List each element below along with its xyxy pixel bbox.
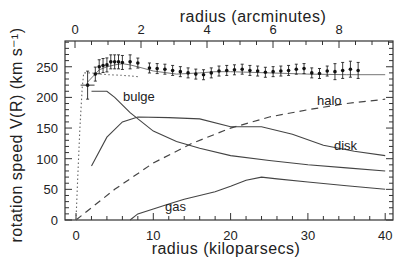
y-tick-label: 200 [36,90,58,105]
data-point [136,61,140,65]
data-point [318,72,322,76]
data-point [279,69,283,73]
data-point [302,67,306,71]
data-point [325,69,329,73]
data-point [109,60,113,64]
data-point [310,71,314,75]
data-point [148,66,152,70]
data-point [248,69,252,73]
x2-axis-title: radius (arcminutes) [180,8,326,25]
data-point [194,72,198,76]
x-tick-label: 30 [301,228,315,243]
label-bulge: bulge [123,89,155,104]
y-tick-label: 100 [36,152,58,167]
data-point [217,69,221,73]
data-point [121,61,125,65]
data-point [225,69,229,73]
data-point [94,72,98,76]
data-point [179,70,183,74]
data-point [113,60,117,64]
data-point [341,69,345,73]
data-point [264,70,268,74]
data-point [202,73,206,77]
y-tick-label: 250 [36,60,58,75]
label-disk: disk [334,138,358,153]
total-model-curve [88,64,386,82]
x-axis-title: radius (kiloparsecs) [152,240,301,257]
data-point [333,70,337,74]
data-point [287,69,291,73]
data-point [186,71,190,75]
y-tick-label: 150 [36,121,58,136]
data-point [271,70,275,74]
x2-tick-label: 2 [137,22,144,37]
x2-tick-label: 0 [71,22,78,37]
data-point [209,71,213,75]
x-tick-label: 0 [72,228,79,243]
data-point [233,68,237,72]
data-point [105,63,109,67]
rotation-curve-chart: 01020304002468050100150200250 radius (ar… [0,0,411,266]
x2-tick-label: 8 [335,22,342,37]
data-point [356,69,360,73]
data-point [349,67,353,71]
y-axis-title: rotation speed V(R) (km s⁻¹) [8,28,25,243]
data-point [155,67,159,71]
data-point [101,64,105,68]
data-point [117,60,121,64]
data-point [128,60,132,64]
x-tick-label: 40 [378,228,392,243]
label-halo: halo [317,93,342,108]
y-tick-label: 50 [44,182,58,197]
data-point [163,67,167,71]
data-point [240,67,244,71]
data-point [97,65,101,69]
y-tick-label: 0 [51,213,58,228]
halo-curve [76,99,385,220]
data-point [295,67,299,71]
label-gas: gas [165,199,186,214]
data-point [171,69,175,73]
data-point [256,69,260,73]
